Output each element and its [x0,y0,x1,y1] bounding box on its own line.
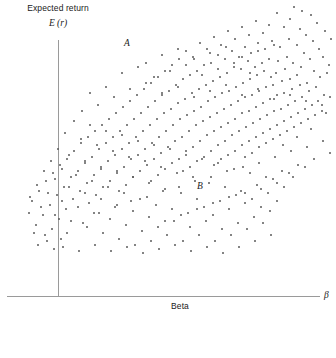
scatter-point [269,98,271,100]
scatter-point [280,108,282,110]
scatter-point [137,140,139,142]
scatter-point [316,22,318,24]
scatter-point [118,238,120,240]
scatter-point [47,192,49,194]
scatter-point [322,140,324,142]
scatter-point [268,24,270,26]
scatter-point [98,148,100,150]
scatter-point [263,70,265,72]
scatter-point [45,180,47,182]
scatter-point [325,112,327,114]
scatter-point [220,158,222,160]
scatter-point [201,74,203,76]
scatter-point [235,86,237,88]
scatter-point [168,90,170,92]
scatter-point [209,116,211,118]
scatter-point [253,216,255,218]
scatter-point [142,130,144,132]
scatter-point [144,160,146,162]
scatter-point [260,206,262,208]
scatter-point [244,46,246,48]
scatter-point [81,110,83,112]
scatter-point [256,74,258,76]
scatter-point [158,136,160,138]
scatter-point [240,190,242,192]
scatter-point [100,168,102,170]
scatter-point [65,208,67,210]
scatter-point [63,186,65,188]
scatter-point [247,60,249,62]
scatter-point [155,204,157,206]
scatter-point [220,44,222,46]
scatter-point [329,96,331,98]
scatter-point [209,52,211,54]
scatter-point [91,180,93,182]
scatter-point [314,114,316,116]
scatter-point [146,164,148,166]
scatter-point [251,94,253,96]
scatter-point [273,44,275,46]
scatter-point [77,206,79,208]
scatter-point [164,168,166,170]
scatter-point [244,202,246,204]
scatter-point [251,198,253,200]
scatter-point [309,58,311,60]
scatter-point [248,110,250,112]
scatter-point [300,66,302,68]
scatter-point [31,200,33,202]
scatter-point [84,162,86,164]
scatter-point [80,138,82,140]
scatter-point [226,170,228,172]
scatter-point [61,200,63,202]
scatter-point [249,72,251,74]
scatter-point [110,250,112,252]
scatter-point [135,136,137,138]
scatter-point [62,246,64,248]
scatter-point [205,220,207,222]
scatter-point [53,248,55,250]
scatter-point [304,166,306,168]
scatter-point [156,118,158,120]
scatter-point [157,76,159,78]
scatter-point [203,156,205,158]
scatter-point [72,198,74,200]
scatter-point [164,220,166,222]
scatter-point [174,140,176,142]
scatter-point [179,118,181,120]
scatter-point [315,86,317,88]
scatter-point [173,220,175,222]
scatter-point [79,190,81,192]
scatter-point [107,186,109,188]
scatter-point [269,128,271,130]
scatter-point [84,192,86,194]
scatter-point [308,90,310,92]
scatter-point [44,234,46,236]
scatter-point [265,86,267,88]
scatter-point [227,30,229,32]
scatter-point [330,38,332,40]
scatter-point [94,244,96,246]
scatter-point [222,252,224,254]
scatter-point [273,110,275,112]
scatter-point [224,186,226,188]
scatter-point [206,246,208,248]
scatter-point [123,166,125,168]
scatter-point [210,176,212,178]
scatter-point [313,70,315,72]
scatter-point [89,124,91,126]
scatter-point [324,30,326,32]
scatter-point [137,66,139,68]
scatter-point [139,170,141,172]
scatter-point [321,104,323,106]
scatter-point [116,170,118,172]
scatter-point [114,206,116,208]
scatter-point [228,90,230,92]
scatter-point [121,148,123,150]
scatter-point [196,160,198,162]
scatter-point [260,188,262,190]
scatter-point [160,152,162,154]
scatter-point [299,84,301,86]
scatter-point [281,80,283,82]
scatter-point [189,166,191,168]
scatter-point [56,194,58,196]
